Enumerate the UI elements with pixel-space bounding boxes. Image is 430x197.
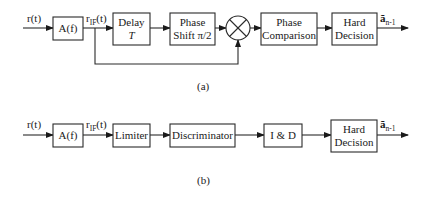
input-signal-label-a: r(t) (27, 12, 41, 25)
caption-b: (b) (197, 174, 210, 187)
integrate-dump-label: I & D (270, 129, 296, 141)
filter-block-b: A(f) (53, 124, 83, 147)
delay-symbol: T (128, 29, 135, 41)
filter-label-a: A(f) (59, 22, 78, 35)
if-signal-label-a: rIF(t) (86, 12, 107, 27)
hard-decision-block-a: Hard Decision (332, 13, 377, 45)
limiter-block: Limiter (113, 124, 150, 147)
phase-comparison-label-1: Phase (276, 16, 302, 28)
delay-block: Delay T (113, 13, 150, 45)
phase-shift-label-1: Phase (180, 16, 206, 28)
limiter-label: Limiter (115, 129, 148, 141)
hard-decision-block-b: Hard Decision (331, 120, 377, 152)
diagram-b: r(t) A(f) rIF(t) Limiter Discriminator I… (23, 118, 408, 187)
phase-comparison-label-2: Comparison (262, 29, 316, 41)
output-symbol-label-a: ãn-1 (380, 12, 396, 27)
hard-decision-label-1-b: Hard (343, 123, 365, 135)
filter-block-a: A(f) (53, 17, 83, 40)
if-signal-label-b: rIF(t) (86, 118, 107, 133)
discriminator-block: Discriminator (170, 124, 235, 147)
hard-decision-label-1-a: Hard (344, 16, 366, 28)
phase-comparison-block: Phase Comparison (261, 13, 317, 45)
hard-decision-label-2-b: Decision (334, 136, 374, 148)
discriminator-label: Discriminator (172, 129, 233, 141)
input-signal-label-b: r(t) (27, 118, 41, 131)
filter-label-b: A(f) (59, 129, 78, 142)
caption-a: (a) (197, 80, 210, 93)
block-diagrams: r(t) A(f) rIF(t) Delay T Phase Shift π/2 (0, 0, 430, 197)
integrate-dump-block: I & D (264, 124, 302, 147)
phase-shift-label-2: Shift π/2 (173, 29, 211, 41)
phase-shift-block: Phase Shift π/2 (170, 13, 215, 45)
delay-label: Delay (118, 16, 145, 28)
multiplier-icon (226, 16, 250, 40)
diagram-a: r(t) A(f) rIF(t) Delay T Phase Shift π/2 (23, 12, 408, 93)
output-symbol-label-b: ãn-1 (380, 118, 396, 133)
hard-decision-label-2-a: Decision (335, 29, 375, 41)
